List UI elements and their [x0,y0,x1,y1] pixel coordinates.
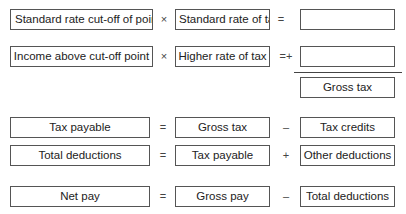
multiply-operator: × [156,9,172,30]
minus-operator: – [278,117,294,138]
higher-rate-of-tax-box: Higher rate of tax [175,46,270,67]
total-deductions-box: Total deductions [10,145,150,166]
multiply-operator: × [156,46,172,67]
minus-operator: – [278,186,294,207]
standard-tax-result-box [300,9,395,30]
tax-credits-box: Tax credits [300,117,395,138]
equals-plus-operator: =+ [276,46,296,67]
standard-rate-cutoff-box: Standard rate cut-off of point [10,9,153,30]
sum-divider-line [294,72,402,73]
equals-operator: = [273,9,289,30]
total-deductions-operand-box: Total deductions [300,186,395,207]
equals-operator: = [155,145,171,166]
net-pay-box: Net pay [10,186,150,207]
gross-tax-box: Gross tax [175,117,270,138]
tax-payable-operand-box: Tax payable [175,145,270,166]
equals-operator: = [155,186,171,207]
income-above-cutoff-box: Income above cut-off point [10,46,153,67]
gross-pay-box: Gross pay [175,186,270,207]
plus-operator: + [278,145,294,166]
tax-payable-box: Tax payable [10,117,150,138]
other-deductions-box: Other deductions [300,145,395,166]
higher-tax-result-box [300,46,395,67]
equals-operator: = [155,117,171,138]
gross-tax-total-box: Gross tax [300,77,395,98]
standard-rate-of-tax-box: Standard rate of tax [175,9,270,30]
